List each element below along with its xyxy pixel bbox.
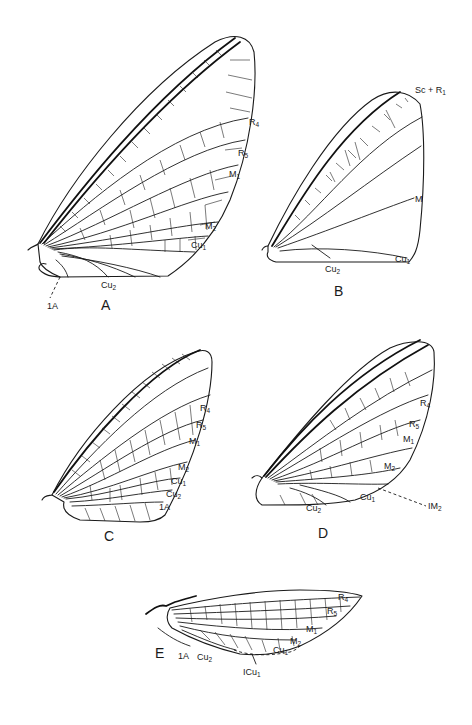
label-d-cu2: Cu2 [306,503,321,516]
label-c-r5: R5 [196,420,206,433]
label-c-cu2: Cu2 [166,489,181,502]
label-d-cu1: Cu1 [360,492,375,505]
leader-d-im2 [378,488,426,506]
panel-letter-e: E [155,646,164,660]
label-e-r4: R4 [338,592,348,605]
label-c-1a: 1A [159,502,170,515]
label-e-cu2: Cu2 [197,652,212,665]
label-a-m2: M2 [205,221,216,234]
wing-drawings [0,0,472,725]
label-e-icu1: ICu1 [243,667,261,680]
leader-a-1a [50,277,60,298]
label-a-m1: M1 [229,169,240,182]
wing-a-drawing [28,37,434,664]
label-b-cu1: Cu1 [395,254,410,267]
label-e-1a: 1A [178,651,189,664]
label-a-r4: R4 [249,117,259,130]
label-e-m1: M1 [306,624,317,637]
label-b-cu2: Cu2 [325,264,340,277]
wing-venation-figure: R4 R5 M1 M2 Cu1 Cu2 1A A Sc + R1 M Cu1 C… [0,0,472,725]
label-a-r5: R5 [238,148,248,161]
label-d-m1: M1 [403,434,414,447]
label-a-1a: 1A [47,301,58,314]
label-b-sc-r1: Sc + R1 [415,85,446,98]
label-e-cu1: Cu1 [273,645,288,658]
label-c-r4: R4 [200,403,210,416]
panel-letter-a: A [101,298,110,312]
panel-letter-c: C [104,529,114,543]
label-d-r5: R5 [409,419,419,432]
label-d-r4: R4 [420,398,430,411]
panel-letter-d: D [318,526,328,540]
label-c-cu1: Cu1 [171,476,186,489]
label-e-r5: R5 [327,606,337,619]
label-d-im2: IM2 [428,501,442,514]
label-a-cu1: Cu1 [191,240,206,253]
label-d-m2: M2 [384,461,395,474]
label-c-m2: M2 [178,462,189,475]
label-b-m: M [415,194,423,207]
label-e-m2: M2 [290,636,301,649]
panel-letter-b: B [334,284,343,298]
label-a-cu2: Cu2 [101,280,116,293]
label-c-m1: M1 [189,436,200,449]
